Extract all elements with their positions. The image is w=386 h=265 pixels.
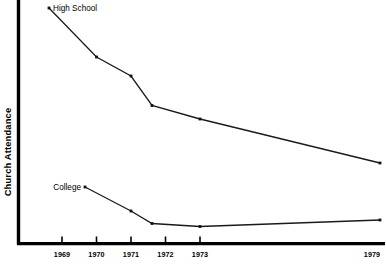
- y-axis-title: Church Attendance: [2, 108, 13, 197]
- x-tick-label-1972: 1972: [157, 250, 173, 259]
- data-point-high-school-1972: [151, 104, 154, 107]
- line-chart: 1969 1970 1971 1972 1973 1979 Church Att…: [0, 0, 386, 265]
- data-point-college-1973: [199, 225, 202, 228]
- x-tick-label-1970: 1970: [88, 250, 104, 259]
- x-tick-label-1979: 1979: [364, 250, 380, 259]
- data-point-college-1979: [379, 219, 382, 222]
- series-high-school: High School: [48, 4, 382, 164]
- data-point-high-school-1970: [95, 56, 98, 59]
- series-label-high-school: High School: [53, 4, 97, 13]
- data-point-high-school-1971: [130, 75, 133, 78]
- data-point-high-school-1979: [379, 162, 382, 165]
- data-point-college-1971: [130, 210, 133, 213]
- x-tick-label-1969: 1969: [54, 250, 70, 259]
- x-tick-label-1973: 1973: [192, 250, 208, 259]
- chart-container: 1969 1970 1971 1972 1973 1979 Church Att…: [0, 0, 386, 265]
- data-point-high-school-1973: [199, 118, 202, 121]
- data-point-college-1972: [151, 222, 154, 225]
- x-axis-tick-labels: 1969 1970 1971 1972 1973 1979: [54, 250, 380, 259]
- data-point-college-1970: [84, 186, 87, 189]
- data-point-high-school-1969: [48, 7, 51, 10]
- series-label-college: College: [53, 183, 81, 192]
- series-line-high-school: [49, 8, 380, 163]
- x-tick-label-1971: 1971: [123, 250, 139, 259]
- series-college: College: [53, 183, 381, 228]
- series-line-college: [85, 187, 380, 227]
